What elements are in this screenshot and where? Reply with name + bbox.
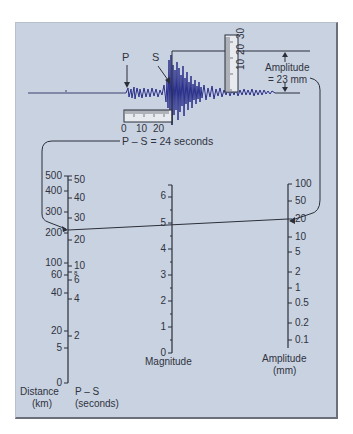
distance-tick: 200 (30, 228, 62, 238)
time-tick-20: 20 (153, 124, 164, 134)
amplitude-axis-unit: (mm) (273, 366, 296, 376)
distance-tick: 500 (30, 171, 62, 181)
distance-tick: 60 (30, 270, 62, 280)
ps-tick: 40 (74, 193, 85, 203)
amplitude-tick: 0.5 (295, 298, 309, 308)
distance-tick: 400 (30, 186, 62, 196)
amplitude-tick: 100 (295, 179, 312, 189)
amplitude-tick: 20 (295, 214, 306, 224)
amplitude-tick: 0.1 (295, 335, 309, 345)
time-tick-0: 0 (121, 124, 127, 134)
ps-axis-label: P – S (75, 387, 99, 397)
amplitude-tick: 2 (295, 267, 301, 277)
distance-axis-unit: (km) (32, 399, 52, 409)
reading-line (68, 219, 288, 230)
distance-tick: 40 (30, 288, 62, 298)
amp-ruler-tick-30: 30 (236, 28, 246, 39)
ps-tick: 2 (74, 331, 80, 341)
ps-tick: 50 (74, 175, 85, 185)
magnitude-tick: 2 (150, 296, 166, 306)
amplitude-tick: 5 (295, 247, 301, 257)
magnitude-axis-label: Magnitude (145, 357, 192, 367)
ps-tick: 30 (74, 213, 85, 223)
amplitude-label-line1: Amplitude (265, 63, 309, 73)
distance-tick: 20 (30, 326, 62, 336)
p-wave-label: P (122, 52, 129, 62)
magnitude-tick: 4 (150, 244, 166, 254)
distance-tick: 5 (30, 343, 62, 353)
ps-axis-unit: (seconds) (75, 399, 119, 409)
amp-ruler-tick-20: 20 (236, 44, 246, 55)
ps-tick: 4 (74, 294, 80, 304)
ps-interval-label: P – S = 24 seconds (122, 136, 213, 146)
ps-tick: 6 (74, 275, 80, 285)
amp-ruler-tick-10: 10 (236, 59, 246, 70)
magnitude-tick: 1 (150, 322, 166, 332)
time-tick-10: 10 (136, 124, 147, 134)
amplitude-tick: 0.2 (295, 318, 309, 328)
distance-axis-label: Distance (20, 387, 59, 397)
amplitude-tick: 50 (295, 196, 306, 206)
amplitude-tick: 1 (295, 283, 301, 293)
amplitude-label-line2: = 23 mm (268, 75, 307, 85)
amplitude-axis-label: Amplitude (262, 354, 306, 364)
s-wave-label: S (152, 52, 159, 62)
distance-tick: 300 (30, 207, 62, 217)
magnitude-tick: 6 (150, 191, 166, 201)
distance-tick: 100 (30, 258, 62, 268)
magnitude-tick: 3 (150, 270, 166, 280)
amplitude-tick: 10 (295, 232, 306, 242)
magnitude-tick: 5 (150, 218, 166, 228)
ps-tick: 20 (74, 235, 85, 245)
